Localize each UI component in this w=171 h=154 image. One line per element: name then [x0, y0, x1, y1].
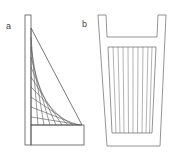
vertical-post	[25, 15, 31, 145]
panel-a-drawing	[25, 15, 84, 145]
inner-panel-slats	[113, 47, 152, 133]
outer-frame	[98, 15, 166, 146]
panel-b-drawing	[98, 15, 166, 146]
hatched-triangle	[31, 28, 82, 125]
inner-panel	[108, 47, 156, 133]
diagram-canvas	[0, 0, 171, 154]
base-block	[31, 125, 84, 145]
triangle-hatching	[31, 37, 81, 125]
